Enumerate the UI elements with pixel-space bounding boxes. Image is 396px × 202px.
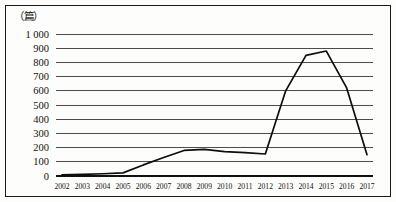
y-axis-tick-label: 300 [33, 128, 49, 139]
x-axis-tick-label: 2009 [197, 182, 212, 191]
y-axis-tick-label: 1 000 [25, 29, 49, 40]
x-axis-tick-label: 2010 [217, 182, 232, 191]
y-axis-tick-label: 700 [33, 71, 49, 82]
y-axis-tick-label: 900 [33, 43, 49, 54]
y-axis-tick-label: 0 [44, 171, 49, 182]
x-axis-tick-label: 2011 [238, 182, 253, 191]
chart-plot-area: 1 0009008007006005004003002001000 200220… [0, 0, 396, 202]
x-axis-tick-label: 2015 [319, 182, 334, 191]
y-axis-tick-label: 600 [33, 85, 49, 96]
y-axis-tick-label: 800 [33, 57, 49, 68]
x-axis-tick-label: 2003 [75, 182, 90, 191]
x-axis-tick-labels: 2002200320042005200620072008200920102011… [54, 182, 374, 191]
gridlines-group [56, 34, 373, 176]
x-axis-tick-label: 2004 [95, 182, 110, 191]
x-axis-tick-label: 2017 [359, 182, 374, 191]
x-axis-tick-label: 2012 [258, 182, 273, 191]
y-axis-tick-label: 500 [33, 100, 49, 111]
y-axis-tick-label: 100 [33, 156, 49, 167]
x-axis-tick-label: 2006 [136, 182, 151, 191]
y-axis-tick-labels: 1 0009008007006005004003002001000 [25, 29, 49, 182]
data-line-series [62, 51, 367, 175]
x-axis-tick-label: 2014 [298, 182, 313, 191]
x-axis-tick-label: 2002 [54, 182, 69, 191]
x-axis-tick-label: 2016 [339, 182, 354, 191]
y-axis-tick-label: 400 [33, 114, 49, 125]
y-axis-tick-label: 200 [33, 142, 49, 153]
x-axis-tick-label: 2013 [278, 182, 293, 191]
line-series-group [62, 51, 367, 175]
x-axis-tick-label: 2005 [115, 182, 130, 191]
x-axis-tick-label: 2008 [176, 182, 191, 191]
chart-figure: （篇） 1 0009008007006005004003002001000 20… [0, 0, 396, 202]
x-axis-tick-label: 2007 [156, 182, 171, 191]
